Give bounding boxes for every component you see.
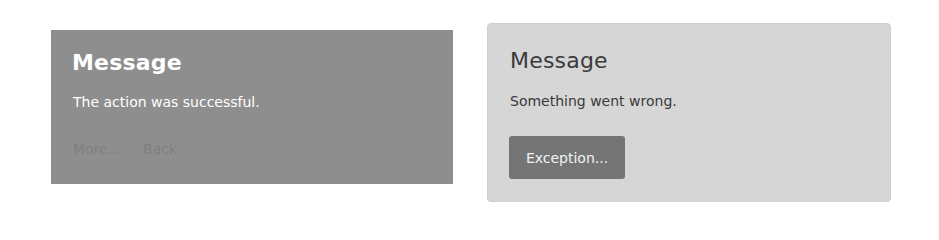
error-card-title: Message [510, 48, 608, 73]
success-card-links: More... Back [73, 141, 177, 157]
exception-button[interactable]: Exception... [509, 136, 625, 179]
error-message-card: Message Something went wrong. Exception.… [487, 23, 891, 202]
success-card-text: The action was successful. [73, 94, 260, 110]
success-card-title: Message [72, 50, 182, 75]
more-link[interactable]: More... [73, 141, 121, 157]
error-card-text: Something went wrong. [510, 93, 677, 109]
back-link[interactable]: Back [143, 141, 177, 157]
success-message-card: Message The action was successful. More.… [51, 30, 453, 184]
